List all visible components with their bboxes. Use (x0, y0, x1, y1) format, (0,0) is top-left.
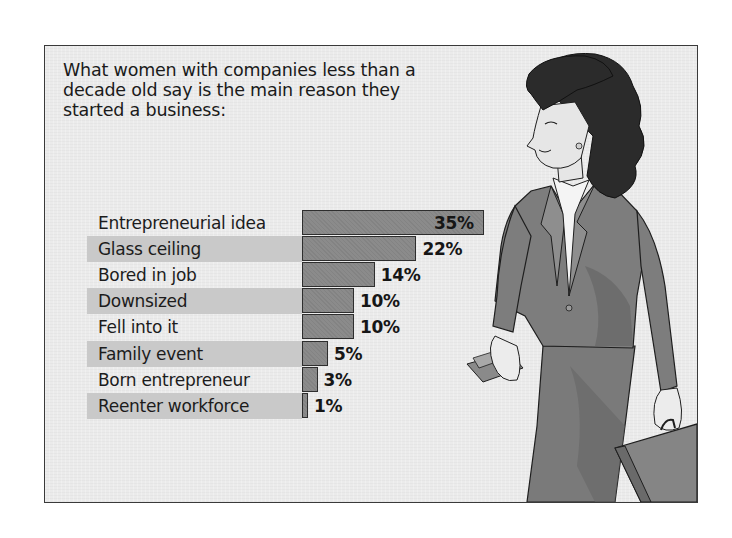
value-label: 10% (360, 316, 400, 338)
value-label: 22% (422, 238, 462, 260)
chart-frame: What women with companies less than a de… (44, 45, 698, 503)
category-label: Glass ceiling (98, 238, 201, 260)
chart-title: What women with companies less than a de… (63, 60, 363, 120)
category-label: Family event (98, 343, 203, 365)
value-label: 5% (334, 343, 362, 365)
bar-row: Family event5% (87, 341, 507, 367)
bar-row: Entrepreneurial idea35% (87, 210, 507, 236)
value-label: 1% (314, 395, 342, 417)
bar-row: Fell into it10% (87, 314, 507, 340)
category-label: Entrepreneurial idea (98, 212, 266, 234)
bar-row: Bored in job14% (87, 262, 507, 288)
bar (302, 288, 354, 313)
bar (302, 236, 416, 261)
bar (302, 341, 328, 366)
title-line-2: decade old say is the main reason they (63, 80, 363, 100)
value-label: 3% (324, 369, 352, 391)
bar-row: Reenter workforce1% (87, 393, 507, 419)
bar-row: Born entrepreneur3% (87, 367, 507, 393)
value-label: 10% (360, 290, 400, 312)
title-line-3: started a business: (63, 100, 363, 120)
category-label: Reenter workforce (98, 395, 249, 417)
category-label: Fell into it (98, 316, 178, 338)
category-label: Born entrepreneur (98, 369, 250, 391)
bar-row: Glass ceiling22% (87, 236, 507, 262)
bar (302, 367, 318, 392)
bar-row: Downsized10% (87, 288, 507, 314)
category-label: Bored in job (98, 264, 197, 286)
bar (302, 314, 354, 339)
businesswoman-illustration (465, 46, 697, 502)
title-line-1: What women with companies less than a (63, 60, 363, 80)
bar-chart: Entrepreneurial idea35%Glass ceiling22%B… (87, 210, 507, 420)
bar (302, 393, 308, 418)
category-label: Downsized (98, 290, 187, 312)
value-label: 14% (381, 264, 421, 286)
bar (302, 262, 375, 287)
